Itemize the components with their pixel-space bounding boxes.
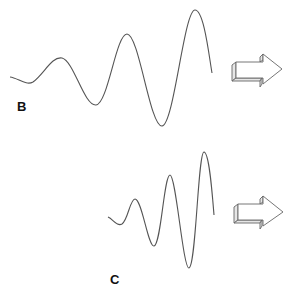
panel-label-c: C [110,272,119,287]
panel-label-b: B [17,99,26,114]
arrow-right-icon-c [234,196,283,229]
wave-b [10,10,212,126]
wave-c [108,152,214,268]
arrow-right-icon-b [232,54,282,87]
diagram-canvas [0,0,296,289]
